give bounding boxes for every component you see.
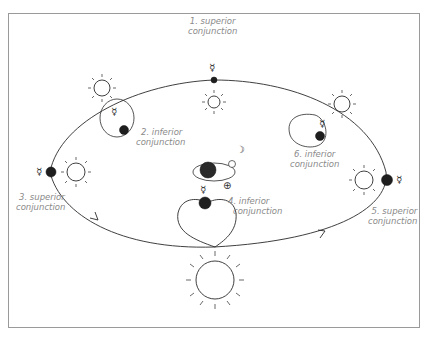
orbit-diagram: [0, 0, 428, 338]
label-2-inferior-conjunction: 2. inferior conjunction: [136, 128, 185, 147]
label-1-superior-conjunction: 1. superior conjunction: [188, 17, 237, 36]
direction-arrow-icon: [90, 212, 325, 238]
sun-icon: [61, 74, 375, 309]
label-6-inferior-conjunction: 6. inferior conjunction: [290, 150, 339, 169]
moon-icon: [229, 161, 236, 168]
mercury-symbol-icon: ☿: [111, 107, 117, 117]
label-3-superior-conjunction: 3. superior conjunction: [16, 193, 65, 212]
mercury-symbol-icon: ☿: [209, 63, 215, 73]
mercury-symbol-icon: ☿: [36, 167, 42, 177]
label-5-superior-conjunction: 5. superior conjunction: [368, 207, 417, 226]
retrograde-loop-2: [100, 99, 134, 137]
label-4-inferior-conjunction: 4. inferior conjunction: [228, 197, 282, 216]
earth-icon: [200, 162, 216, 178]
mercury-symbol-icon: ☿: [319, 119, 325, 129]
moon-symbol-icon: ☽: [236, 145, 245, 155]
earth-symbol-icon: ⊕: [223, 181, 231, 191]
mercury-symbol-icon: ☿: [200, 185, 206, 195]
mercury-symbol-icon: ☿: [396, 175, 402, 185]
